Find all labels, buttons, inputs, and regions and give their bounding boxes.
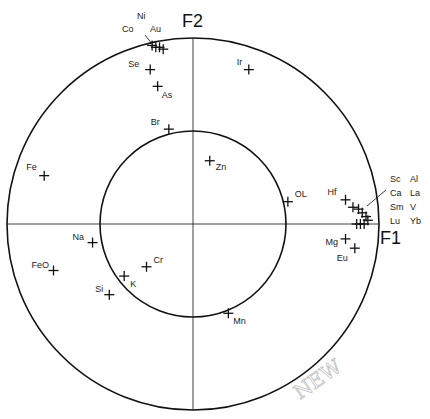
group-label: La xyxy=(410,188,420,198)
data-point-hf: Hf xyxy=(328,187,351,205)
group-label: Al xyxy=(410,174,418,184)
point-label: Eu xyxy=(337,253,348,263)
group-label: Ca xyxy=(390,188,402,198)
point-label: OL xyxy=(295,189,307,199)
point-label: FeO xyxy=(32,260,50,270)
point-label: Br xyxy=(151,117,160,127)
group-label: Sm xyxy=(390,202,404,212)
group-label: Sc xyxy=(390,174,401,184)
f1-axis-label: F1 xyxy=(380,228,401,248)
point-label: Cr xyxy=(154,255,164,265)
data-point-feo: FeO xyxy=(32,260,59,276)
point-label: Se xyxy=(128,59,139,69)
data-point-br: Br xyxy=(151,117,174,134)
chart-frame xyxy=(7,38,379,410)
data-point-fe: Fe xyxy=(26,162,49,181)
group-label: Au xyxy=(150,24,161,34)
data-point-mg: Mg xyxy=(326,234,351,247)
point-label: Si xyxy=(95,284,103,294)
data-point-ol: OL xyxy=(283,189,307,207)
point-label: Mg xyxy=(326,237,339,247)
correlation-circle-chart: SeAsIrBrZnOLFeNaFeOCrKSiMnHfMgEu NiCoAuS… xyxy=(0,0,430,419)
data-point-cr: Cr xyxy=(142,255,164,272)
data-point-eu: Eu xyxy=(337,243,360,263)
data-point-ir: Ir xyxy=(237,57,254,75)
data-point-sc xyxy=(348,202,358,212)
f2-axis-label: F2 xyxy=(182,11,203,31)
data-point-si: Si xyxy=(95,284,114,300)
data-point-zn: Zn xyxy=(205,156,227,172)
group-label: Lu xyxy=(390,216,400,226)
point-label: Mn xyxy=(233,316,246,326)
group-label: Yb xyxy=(410,216,421,226)
data-point-k: K xyxy=(119,271,136,289)
point-label: As xyxy=(162,90,173,100)
group-label: Co xyxy=(122,24,134,34)
point-label: Zn xyxy=(216,162,227,172)
data-point-na: Na xyxy=(73,232,98,248)
data-points: SeAsIrBrZnOLFeNaFeOCrKSiMnHfMgEu xyxy=(26,40,373,326)
data-point-se: Se xyxy=(128,59,155,75)
data-point-as: As xyxy=(153,81,173,100)
point-label: Hf xyxy=(328,187,337,197)
point-label: K xyxy=(130,279,136,289)
point-label: Fe xyxy=(26,162,37,172)
point-label: Ir xyxy=(237,57,243,67)
group-label: Ni xyxy=(137,11,146,21)
group-label: V xyxy=(410,202,416,212)
point-label: Na xyxy=(73,232,85,242)
